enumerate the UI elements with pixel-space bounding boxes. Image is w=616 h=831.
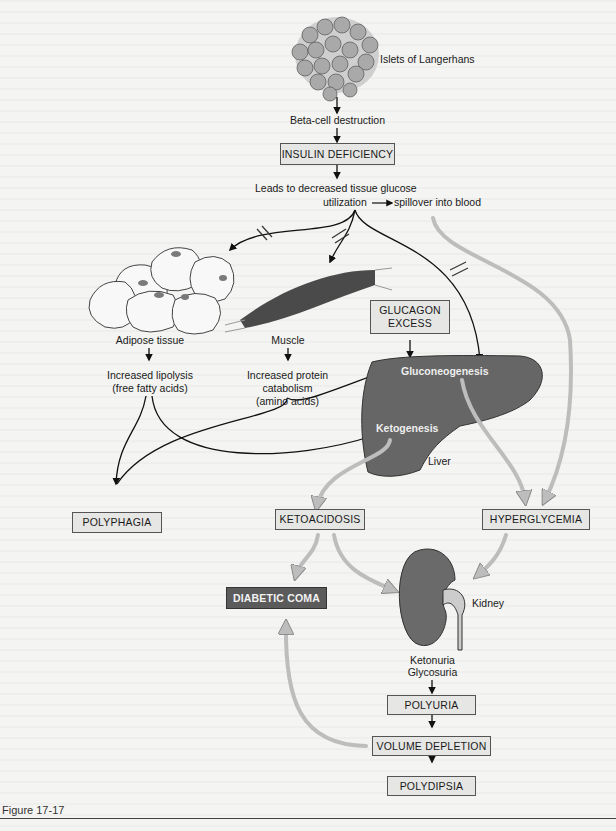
figure-caption: Figure 17-17 [2, 804, 64, 816]
decreased-utilization-label: Leads to decreased tissue glucose [255, 182, 415, 195]
lipolysis-label-2: (free fatty acids) [100, 382, 200, 395]
adipose-tissue-icon [89, 248, 234, 334]
volume-depletion-box: VOLUME DEPLETION [372, 736, 491, 756]
beta-cell-label: Beta-cell destruction [280, 114, 395, 127]
polyuria-box: POLYURIA [387, 695, 476, 715]
gluconeogenesis-label: Gluconeogenesis [401, 365, 489, 377]
muscle-icon [225, 268, 392, 332]
glucagon-label-2: EXCESS [388, 317, 432, 330]
kidney-label: Kidney [472, 597, 504, 610]
utilization-label: utilization [323, 196, 367, 209]
adipose-label: Adipose tissue [110, 334, 190, 347]
protein-label-2: catabolism [240, 382, 335, 395]
diabetic-coma-box: DIABETIC COMA [226, 587, 327, 609]
glucagon-label-1: GLUCAGON [379, 304, 441, 317]
protein-label-3: (amino acids) [240, 395, 335, 408]
glucagon-excess-box: GLUCAGON EXCESS [370, 300, 450, 334]
islets-label: Islets of Langerhans [380, 53, 475, 66]
lipolysis-label-1: Increased lipolysis [100, 369, 200, 382]
ketoacidosis-box: KETOACIDOSIS [275, 509, 365, 530]
polydipsia-box: POLYDIPSIA [387, 776, 476, 796]
glycosuria-label: Glycosuria [395, 666, 470, 679]
polyphagia-box: POLYPHAGIA [72, 512, 162, 533]
spillover-label: spillover into blood [394, 196, 481, 209]
hyperglycemia-box: HYPERGLYCEMIA [482, 509, 590, 530]
liver-label: Liver [428, 455, 451, 468]
islets-icon [292, 17, 379, 101]
protein-label-1: Increased protein [240, 369, 335, 382]
kidney-icon [399, 549, 464, 650]
insulin-deficiency-box: INSULIN DEFICIENCY [280, 143, 395, 165]
caption-rule [0, 818, 616, 819]
ketogenesis-label: Ketogenesis [376, 422, 438, 434]
muscle-label: Muscle [258, 334, 318, 347]
